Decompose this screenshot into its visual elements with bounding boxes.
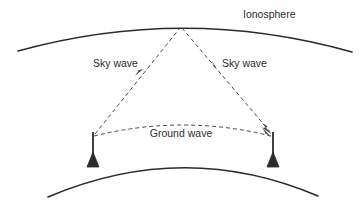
sky-wave-right-label: Sky wave (222, 57, 267, 69)
ionosphere-arc (18, 28, 352, 52)
sky-wave-left-label: Sky wave (93, 57, 138, 69)
antenna-tower-right-base (267, 152, 279, 167)
sky-wave-ascending-ray (95, 28, 180, 134)
sky-wave-descending-ray (182, 28, 271, 133)
sky-wave-up-arrow-icon (133, 69, 143, 76)
radio-propagation-diagram: Ionosphere Sky wave Sky wave Ground wave (0, 0, 360, 207)
ground-wave-label: Ground wave (150, 127, 213, 139)
antenna-tower-left-base (87, 152, 99, 167)
propagation-diagram-canvas: Ionosphere Sky wave Sky wave Ground wave (0, 0, 360, 207)
earth-arc (48, 168, 318, 197)
antenna-tower-right (267, 132, 279, 167)
antenna-tower-left (87, 132, 99, 167)
ionosphere-label: Ionosphere (243, 8, 296, 20)
